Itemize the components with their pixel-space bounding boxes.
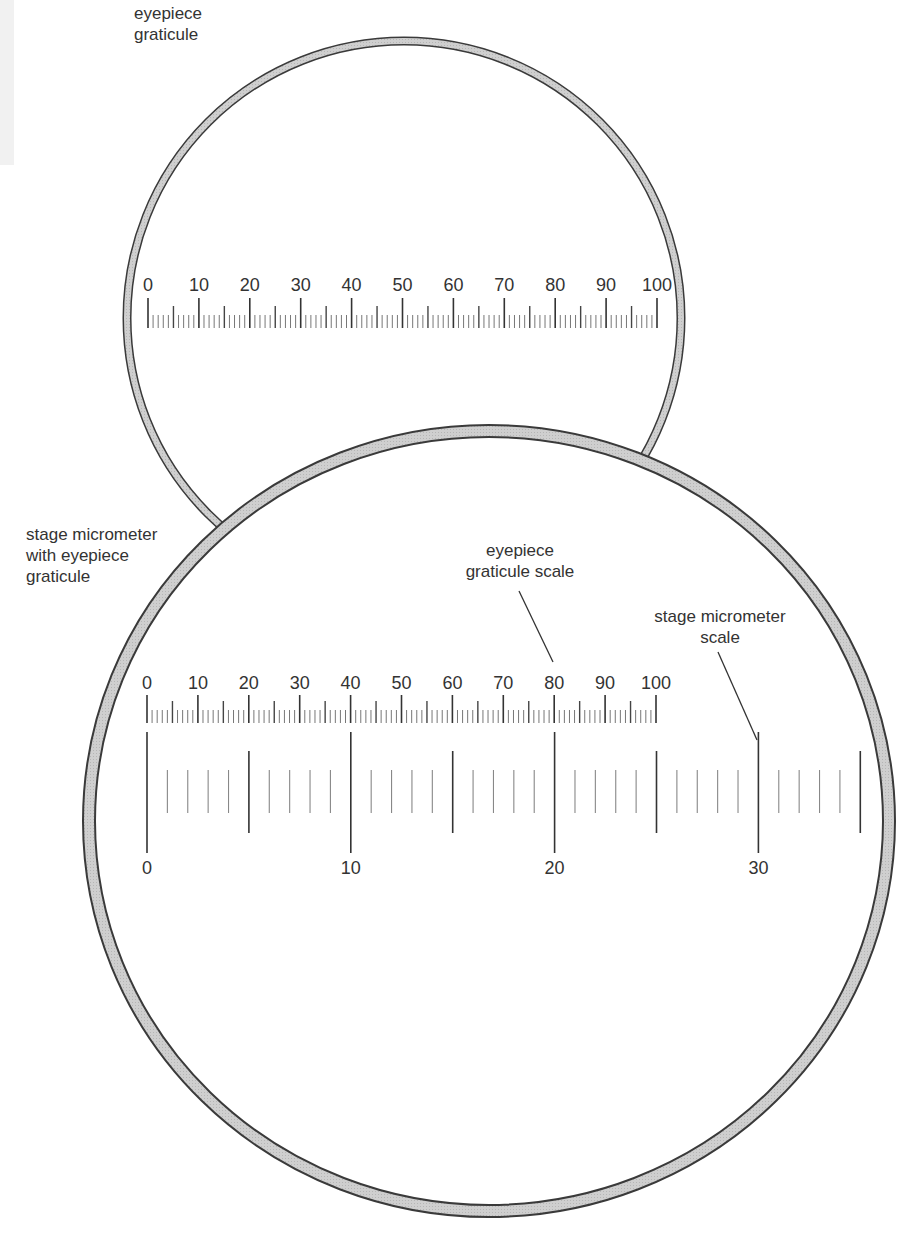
tick-label: 60 — [443, 275, 463, 295]
tick-label: 0 — [142, 673, 152, 693]
tick-label: 100 — [642, 275, 672, 295]
label-line: graticule — [134, 24, 202, 45]
label-line: eyepiece — [450, 540, 590, 561]
tick-label: 80 — [544, 673, 564, 693]
tick-label: 40 — [342, 275, 362, 295]
tick-label: 40 — [341, 673, 361, 693]
tick-label: 60 — [442, 673, 462, 693]
tick-label: 30 — [290, 673, 310, 693]
tick-label: 90 — [595, 673, 615, 693]
label-line: graticule scale — [450, 561, 590, 582]
tick-label: 0 — [142, 858, 152, 878]
tick-label: 10 — [341, 858, 361, 878]
label-eyepiece-scale-callout: eyepiece graticule scale — [450, 540, 590, 582]
label-line: scale — [630, 627, 810, 648]
label-line: graticule — [26, 566, 157, 587]
tick-label: 10 — [189, 275, 209, 295]
tick-label: 30 — [748, 858, 768, 878]
label-line: stage micrometer — [26, 524, 157, 545]
tick-label: 50 — [392, 275, 412, 295]
tick-label: 20 — [239, 673, 259, 693]
tick-label: 90 — [596, 275, 616, 295]
eyepiece-graticule-scale-top: 0102030405060708090100 — [143, 275, 672, 328]
tick-label: 30 — [291, 275, 311, 295]
tick-label: 100 — [641, 673, 671, 693]
label-eyepiece-graticule: eyepiece graticule — [134, 3, 202, 45]
label-line: with eyepiece — [26, 545, 157, 566]
tick-label: 10 — [188, 673, 208, 693]
tick-label: 50 — [391, 673, 411, 693]
tick-label: 0 — [143, 275, 153, 295]
tick-label: 70 — [494, 275, 514, 295]
tick-label: 20 — [545, 858, 565, 878]
label-stage-with-graticule: stage micrometer with eyepiece graticule — [26, 524, 157, 587]
tick-label: 20 — [240, 275, 260, 295]
label-line: eyepiece — [134, 3, 202, 24]
tick-label: 70 — [493, 673, 513, 693]
label-stage-scale-callout: stage micrometer scale — [630, 606, 810, 648]
tick-label: 80 — [545, 275, 565, 295]
label-line: stage micrometer — [630, 606, 810, 627]
